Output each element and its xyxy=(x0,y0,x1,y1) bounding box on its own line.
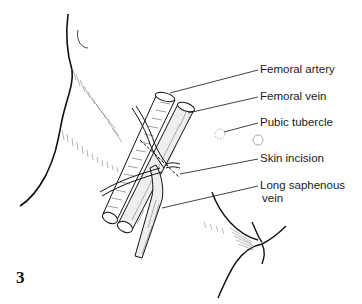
body-outline-left xyxy=(20,14,72,206)
label-long-saphenous-vein-line2: vein xyxy=(262,192,283,205)
label-skin-incision: Skin incision xyxy=(260,152,324,165)
leader-pubic-tubercle xyxy=(224,123,258,132)
pubic-tubercle-marker xyxy=(215,129,225,139)
label-long-saphenous-vein-line1: Long saphenous xyxy=(260,179,345,192)
navel-curve xyxy=(77,30,88,48)
body-outline-right xyxy=(212,192,286,298)
leader-long-saphenous-vein xyxy=(162,186,258,208)
figure-number: 3 xyxy=(16,268,25,288)
label-femoral-artery: Femoral artery xyxy=(260,63,335,76)
leader-femoral-artery xyxy=(170,70,258,93)
label-femoral-vein: Femoral vein xyxy=(260,90,326,103)
leader-femoral-vein xyxy=(188,97,258,113)
label-pubic-tubercle: Pubic tubercle xyxy=(260,116,333,129)
pubic-tubercle-marker-2 xyxy=(253,135,263,145)
leader-skin-incision xyxy=(180,159,258,174)
illustration-canvas: Femoral artery Femoral vein Pubic tuberc… xyxy=(0,0,362,304)
